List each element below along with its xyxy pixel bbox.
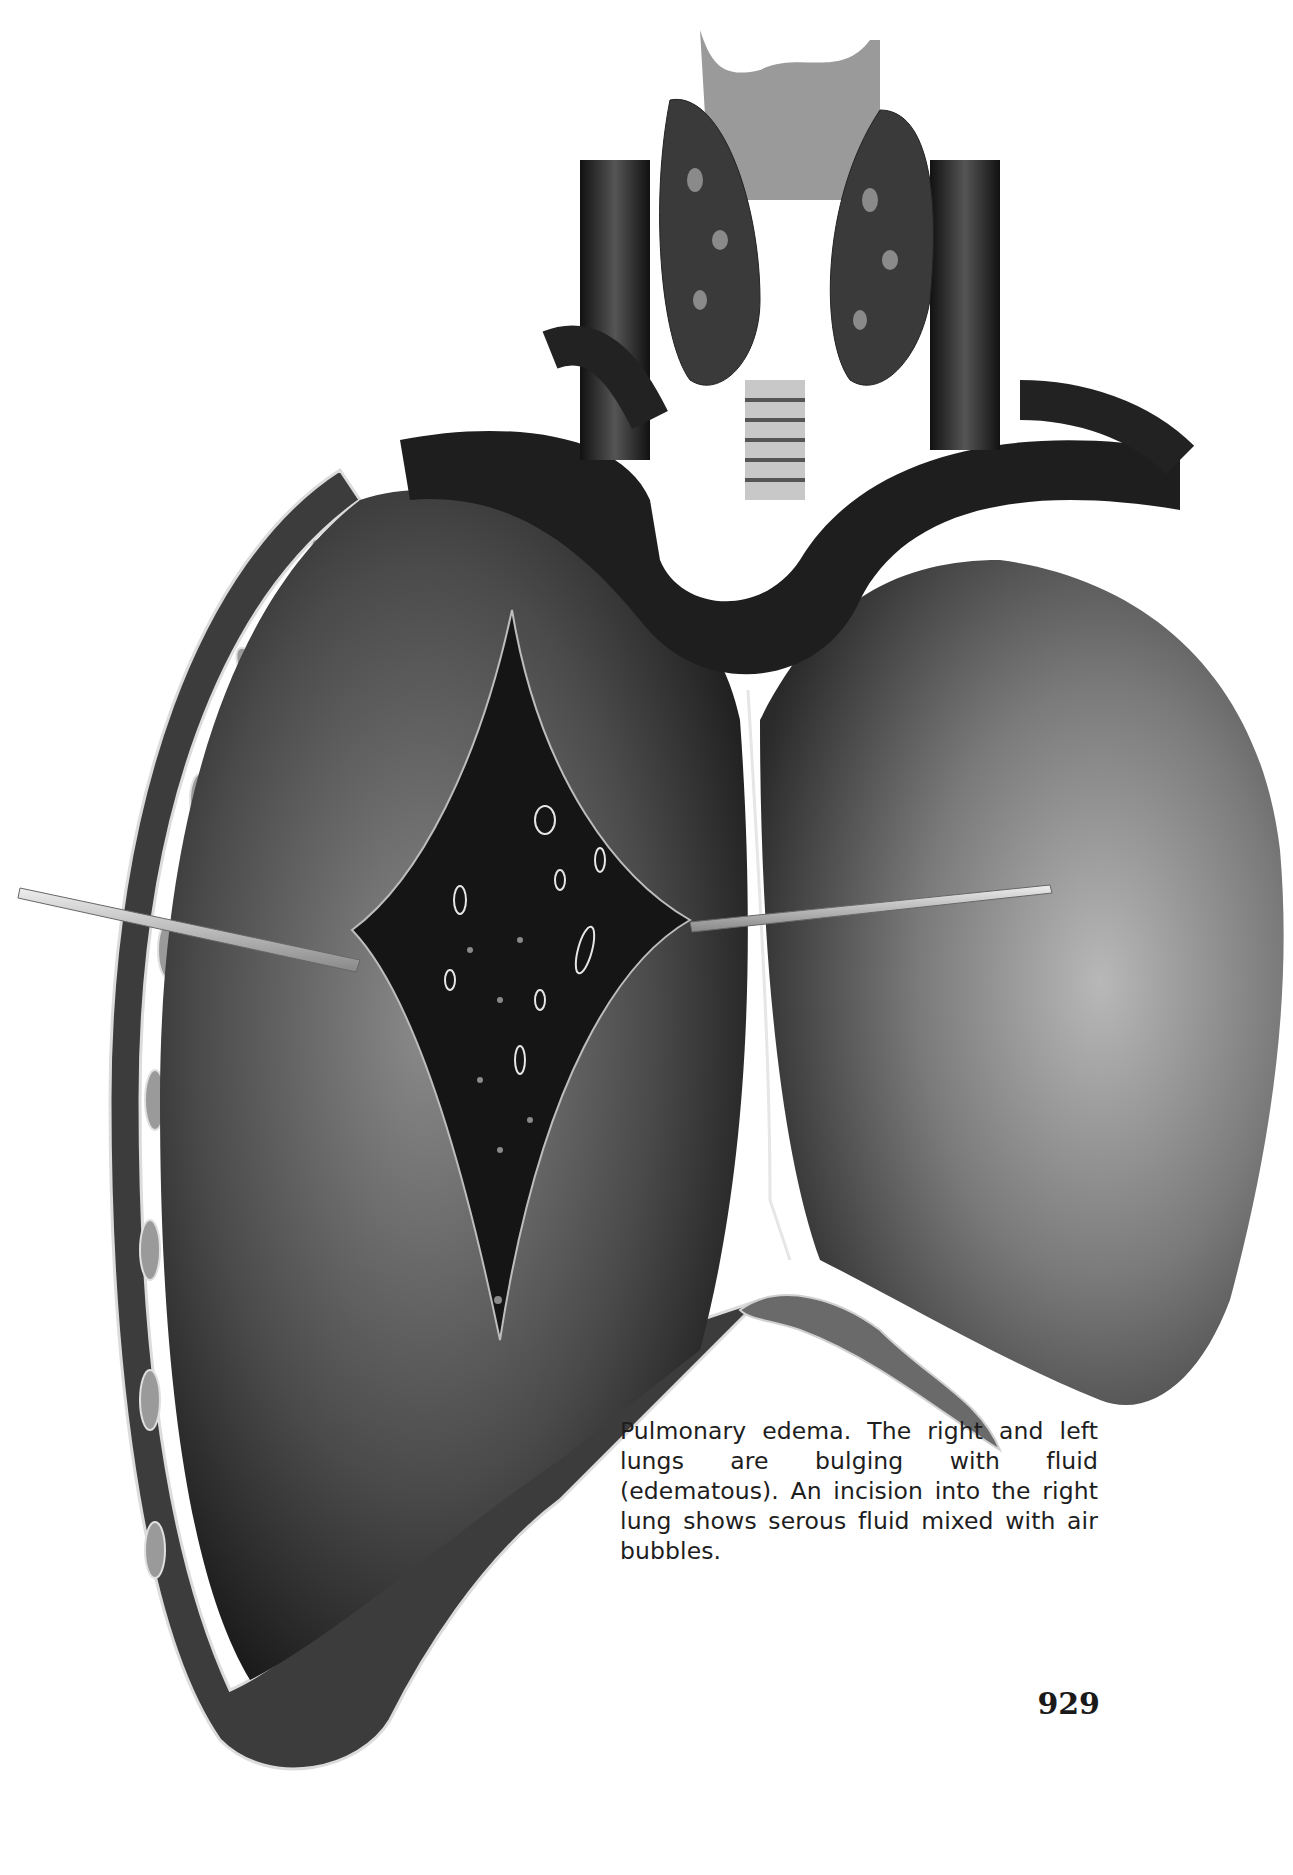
figure-caption: Pulmonary edema. The right and left lung… [620, 1416, 1098, 1566]
left-lung [760, 560, 1284, 1405]
page-number: 929 [1030, 1686, 1100, 1721]
document-page: Pulmonary edema. The right and left lung… [0, 0, 1293, 1875]
lung-illustration [0, 0, 1293, 1875]
trachea-thyroid [660, 30, 934, 500]
